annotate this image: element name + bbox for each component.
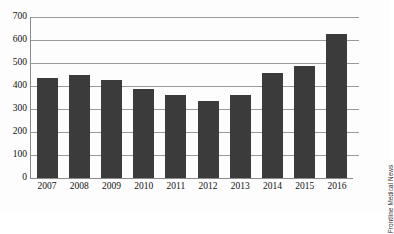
y-axis-label: 600: [3, 35, 27, 45]
y-tick-mark: [353, 17, 359, 18]
y-tick-mark: [353, 132, 359, 133]
y-axis-label: 700: [3, 12, 27, 22]
bar: [69, 75, 90, 178]
bar: [262, 73, 283, 178]
y-axis-label: 500: [3, 58, 27, 68]
y-tick-mark: [353, 86, 359, 87]
plot-area: 0100200300400500600700 20072008200920102…: [30, 17, 353, 179]
y-axis-label: 0: [3, 173, 27, 183]
bar: [37, 78, 58, 178]
y-tick-mark: [353, 63, 359, 64]
bar: [101, 80, 122, 178]
y-axis-label: 200: [3, 127, 27, 137]
y-tick-mark: [353, 40, 359, 41]
x-axis-label: 2007: [30, 182, 64, 192]
x-axis-label: 2011: [159, 182, 193, 192]
x-axis-label: 2009: [95, 182, 129, 192]
bar: [294, 66, 315, 178]
y-axis-label: 100: [3, 150, 27, 160]
y-axis-label: 300: [3, 104, 27, 114]
y-tick-mark: [353, 109, 359, 110]
y-axis-label: 400: [3, 81, 27, 91]
bar: [198, 101, 219, 178]
x-axis-label: 2015: [288, 182, 322, 192]
x-axis-label: 2016: [320, 182, 354, 192]
y-tick-mark: [353, 155, 359, 156]
bar: [165, 95, 186, 178]
credit-watermark: Frontline Medical News: [387, 165, 394, 234]
x-axis-label: 2008: [62, 182, 96, 192]
x-axis-label: 2010: [127, 182, 161, 192]
bar: [230, 95, 251, 178]
bar: [133, 89, 154, 178]
bar: [326, 34, 347, 178]
x-axis-label: 2012: [191, 182, 225, 192]
x-axis-label: 2013: [223, 182, 257, 192]
x-axis-label: 2014: [256, 182, 290, 192]
bars-layer: [31, 17, 353, 178]
